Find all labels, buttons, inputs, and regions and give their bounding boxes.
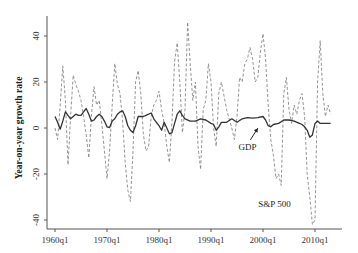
annotations: GDPS&P 500 [238, 128, 291, 209]
chart: 40200-20-40 1960q11970q11980q11990q12000… [0, 0, 358, 253]
x-tick-label: 1990q1 [198, 235, 225, 245]
x-tick-label: 1970q1 [94, 235, 121, 245]
gdp-label: GDP [238, 142, 256, 152]
y-tick-label: -20 [31, 168, 41, 180]
y-tick-label: 20 [31, 77, 41, 87]
x-tick-label: 2000q1 [250, 235, 277, 245]
y-axis: 40200-20-40 [31, 16, 47, 229]
y-tick-label: 40 [31, 31, 41, 41]
y-axis-title: Year-on-year growth rate [14, 77, 24, 180]
y-tick-label: 0 [31, 125, 41, 130]
x-tick-label: 2010q1 [302, 235, 329, 245]
x-tick-label: 1960q1 [42, 235, 69, 245]
sp500-label: S&P 500 [258, 199, 291, 209]
y-tick-label: -40 [31, 214, 41, 226]
x-axis: 1960q11970q11980q11990q12000q12010q1 [42, 229, 343, 245]
sp500-series-line [55, 22, 331, 224]
x-tick-label: 1980q1 [146, 235, 173, 245]
plot-area [55, 22, 331, 224]
